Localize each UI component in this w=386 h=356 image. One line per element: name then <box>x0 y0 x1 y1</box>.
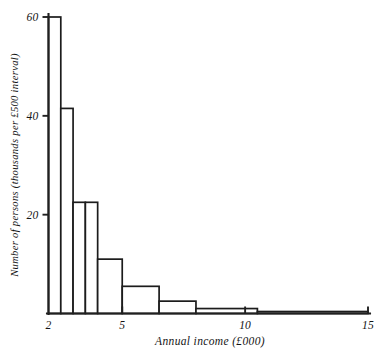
y-tick-labels: 204060 <box>27 11 39 221</box>
y-axis-tick-label: 40 <box>27 110 39 122</box>
histogram-bar <box>73 202 85 313</box>
y-axis-tick-label: 20 <box>27 209 39 221</box>
histogram-bar <box>49 17 61 314</box>
histogram-bar <box>159 301 196 313</box>
histogram-figure: 204060 251015 Annual income (£000) Numbe… <box>0 0 386 356</box>
x-tick-labels: 251015 <box>46 319 374 331</box>
histogram-bar <box>85 202 97 313</box>
histogram-bar <box>122 286 159 313</box>
histogram-bar <box>61 108 73 313</box>
x-axis-tick-label: 2 <box>46 319 52 331</box>
x-axis-tick-label: 5 <box>119 319 125 331</box>
income-histogram-chart: 204060 251015 Annual income (£000) Numbe… <box>0 0 386 356</box>
x-axis-tick-label: 10 <box>239 319 251 331</box>
x-axis-tick-label: 15 <box>362 319 374 331</box>
y-axis-title: Number of persons (thousands per £500 in… <box>9 53 21 278</box>
bars-group <box>49 17 369 314</box>
histogram-bar <box>98 259 123 313</box>
x-axis-title: Annual income (£000) <box>154 335 265 348</box>
y-axis-tick-label: 60 <box>27 11 39 23</box>
